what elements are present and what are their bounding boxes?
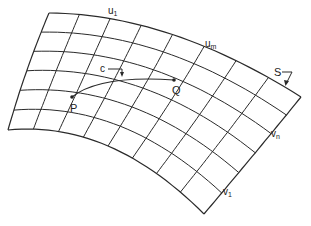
u-line <box>8 13 49 130</box>
label-u1: u1 <box>108 5 118 17</box>
label-q: Q <box>172 84 181 96</box>
surface-diagram: c P Q u1 um vn v1 S <box>0 0 311 226</box>
label-p: P <box>70 102 77 114</box>
s-arrow-icon <box>284 80 289 86</box>
label-c: c <box>100 63 105 74</box>
label-s: S <box>274 66 281 78</box>
label-v1: v1 <box>223 186 232 198</box>
label-um: um <box>205 38 217 50</box>
c-arrow-icon <box>120 72 124 77</box>
v-line <box>8 129 204 214</box>
c-leader-icon <box>108 69 122 75</box>
point-q <box>172 78 176 82</box>
point-p <box>70 95 74 99</box>
parametric-grid <box>8 13 301 214</box>
label-vn: vn <box>271 128 280 140</box>
